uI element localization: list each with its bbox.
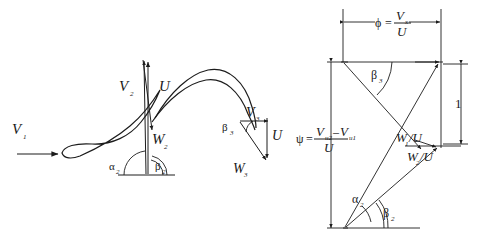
phi-equals-sign: = <box>385 16 392 30</box>
beta2-label-subscript: 2 <box>162 168 166 176</box>
alpha2-label-right: α <box>352 192 359 206</box>
alpha2-label: α <box>109 160 115 172</box>
u-label-station2: U <box>159 78 171 94</box>
beta3-label-right: β <box>371 68 377 82</box>
figure-canvas: V 1 V 2 U W 2 α 2 β 2 V 3 U W 3 β 3 <box>0 0 484 241</box>
phi-symbol: ϕ <box>375 16 381 30</box>
psi-symbol: ψ <box>296 132 304 146</box>
psi-denominator: U <box>324 140 335 155</box>
psi-numerator-second-subscript: u1 <box>349 134 356 142</box>
alpha2-label-right-subscript: 2 <box>360 201 364 209</box>
beta3-label: β <box>222 121 228 133</box>
w3-label-subscript: 3 <box>243 171 248 179</box>
u-label-station3: U <box>272 128 283 143</box>
beta2-label: β <box>155 160 161 172</box>
v3-label: V <box>246 105 256 120</box>
psi-numerator-minus-sign: – <box>332 125 340 139</box>
v2-label-subscript: 2 <box>130 90 134 98</box>
alpha2-label-subscript: 2 <box>116 168 120 176</box>
v1-label-subscript: 1 <box>23 133 27 141</box>
w2-over-u-label-tail: /U <box>419 149 435 164</box>
w2-label-subscript: 2 <box>164 143 168 151</box>
beta3-label-right-subscript: 3 <box>378 77 383 85</box>
velocity-triangle-figure: V 1 V 2 U W 2 α 2 β 2 V 3 U W 3 β 3 <box>0 0 484 241</box>
w1-over-u-label-subscript: 1 <box>405 140 409 148</box>
phi-denominator: U <box>397 24 408 39</box>
unit-value-label: 1 <box>455 96 462 111</box>
w1-over-u-label-tail: /U <box>408 130 424 145</box>
beta2-label-right-subscript: 2 <box>391 215 395 223</box>
beta2-label-right: β <box>383 206 389 220</box>
v3-label-subscript: 3 <box>255 115 260 123</box>
psi-equals-sign: = <box>306 132 313 146</box>
beta3-label-subscript: 3 <box>229 129 234 137</box>
